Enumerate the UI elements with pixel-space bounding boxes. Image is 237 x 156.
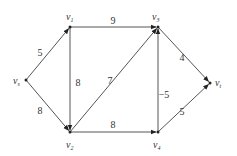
edge-weight-v4-v3: −5 bbox=[159, 89, 170, 100]
edge-weight-v3-vt: 4 bbox=[180, 52, 185, 63]
node-vt bbox=[209, 82, 212, 85]
edge-weight-v1-v2: 8 bbox=[76, 77, 81, 88]
edge-weight-v1-v3: 9 bbox=[111, 15, 116, 26]
edge-weight-vs-v2: 8 bbox=[38, 105, 43, 116]
node-label-v1: v1 bbox=[66, 11, 73, 23]
edge-weight-v4-vt: 5 bbox=[180, 106, 185, 117]
node-label-v3: v3 bbox=[152, 11, 159, 23]
edge-weight-v2-v4: 8 bbox=[111, 119, 116, 130]
node-v3 bbox=[157, 26, 160, 29]
node-label-v2: v2 bbox=[66, 139, 73, 151]
edge-vs-v1 bbox=[26, 29, 69, 80]
directed-graph: 589878−545 vsv1v2v3v4vt bbox=[0, 0, 237, 156]
node-label-vs: vs bbox=[13, 75, 20, 87]
node-vs bbox=[25, 79, 28, 82]
edge-weight-v2-v3: 7 bbox=[108, 75, 113, 86]
node-v1 bbox=[69, 26, 72, 29]
edge-v2-v3 bbox=[70, 29, 157, 132]
node-v2 bbox=[69, 131, 72, 134]
node-label-vt: vt bbox=[215, 77, 221, 89]
edge-weight-vs-v1: 5 bbox=[38, 47, 43, 58]
node-label-v4: v4 bbox=[153, 139, 160, 151]
node-v4 bbox=[157, 131, 160, 134]
edge-vs-v2 bbox=[26, 80, 69, 130]
